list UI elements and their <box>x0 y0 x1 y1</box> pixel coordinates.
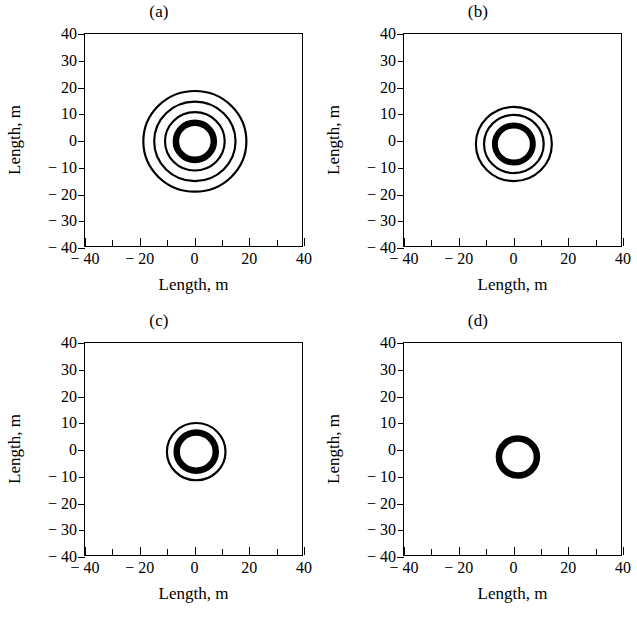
x-tick-minor <box>112 549 113 555</box>
y-tick-label: − 30 <box>48 213 77 229</box>
y-tick-label: 0 <box>388 442 396 458</box>
panel-a: (a) Length, m Length, m 403020100− 10− 2… <box>0 0 318 309</box>
panel-c-ylabel: Length, m <box>6 342 24 556</box>
x-tick-minor <box>541 549 542 555</box>
y-tick-label: − 10 <box>48 469 77 485</box>
x-tick-label: − 20 <box>125 560 154 576</box>
y-tick-label: − 30 <box>367 213 396 229</box>
x-tick-label: 20 <box>241 560 257 576</box>
x-tick-minor <box>431 549 432 555</box>
y-tick <box>79 370 85 371</box>
y-tick-label: 30 <box>380 53 396 69</box>
panel-d: (d) Length, m Length, m 403020100− 10− 2… <box>319 309 637 618</box>
contour-ring <box>476 107 552 181</box>
x-tick-minor <box>486 240 487 246</box>
x-tick-minor <box>541 240 542 246</box>
x-tick-minor <box>596 549 597 555</box>
y-tick <box>78 450 85 451</box>
y-tick <box>397 557 404 558</box>
x-tick <box>195 547 196 555</box>
y-tick-label: 10 <box>61 415 77 431</box>
panel-b: (b) Length, m Length, m 403020100− 10− 2… <box>319 0 637 309</box>
y-tick-label: 10 <box>380 415 396 431</box>
contour-plot-a <box>85 34 302 246</box>
x-tick <box>304 547 305 555</box>
contour-ring <box>154 102 235 182</box>
y-tick <box>397 248 404 249</box>
x-tick-minor <box>222 549 223 555</box>
y-tick <box>79 168 85 169</box>
y-tick <box>398 61 404 62</box>
x-tick <box>85 547 86 555</box>
y-tick-label: − 30 <box>367 522 396 538</box>
y-tick <box>78 504 85 505</box>
x-tick-label: 40 <box>615 560 631 576</box>
y-tick <box>79 477 85 478</box>
y-tick-label: 20 <box>380 389 396 405</box>
x-tick <box>514 238 515 246</box>
x-tick-label: 40 <box>296 251 312 267</box>
x-tick-label: 0 <box>510 251 518 267</box>
panel-c-plot-area: 403020100− 10− 20− 30− 40− 40− 2002040 <box>84 342 303 556</box>
y-tick <box>398 477 404 478</box>
y-tick <box>397 34 404 35</box>
y-tick-label: 40 <box>61 335 77 351</box>
x-tick <box>514 547 515 555</box>
x-tick-minor <box>222 240 223 246</box>
panel-d-xlabel: Length, m <box>403 584 622 603</box>
panel-c-title: (c) <box>0 311 318 331</box>
y-tick-label: 40 <box>380 335 396 351</box>
panel-b-title: (b) <box>319 2 637 22</box>
panel-b-plot-area: 403020100− 10− 20− 30− 40− 40− 2002040 <box>403 33 622 247</box>
x-tick <box>249 238 250 246</box>
panel-c: (c) Length, m Length, m 403020100− 10− 2… <box>0 309 318 618</box>
y-tick <box>79 61 85 62</box>
x-tick-label: − 40 <box>389 560 418 576</box>
contour-plot-c <box>85 343 302 555</box>
y-tick-label: 0 <box>69 133 77 149</box>
y-tick <box>78 34 85 35</box>
y-tick <box>79 221 85 222</box>
y-tick-label: − 10 <box>367 160 396 176</box>
y-tick-label: 0 <box>388 133 396 149</box>
panel-a-plot-area: 403020100− 10− 20− 30− 40− 40− 2002040 <box>84 33 303 247</box>
x-tick-minor <box>486 549 487 555</box>
contour-ring <box>495 125 533 162</box>
y-tick <box>397 141 404 142</box>
x-tick <box>459 547 460 555</box>
y-tick <box>78 343 85 344</box>
panel-d-plot-area: 403020100− 10− 20− 30− 40− 40− 2002040 <box>403 342 622 556</box>
x-tick <box>140 238 141 246</box>
y-tick-label: 30 <box>61 53 77 69</box>
y-tick-label: − 10 <box>367 469 396 485</box>
panel-d-title: (d) <box>319 311 637 331</box>
contour-plot-d <box>404 343 621 555</box>
y-tick <box>398 530 404 531</box>
x-tick-minor <box>277 549 278 555</box>
x-tick-label: − 20 <box>444 251 473 267</box>
y-tick-label: 30 <box>380 362 396 378</box>
y-tick <box>397 504 404 505</box>
y-tick <box>398 423 404 424</box>
panel-c-xlabel: Length, m <box>84 584 303 603</box>
x-tick-label: 20 <box>560 560 576 576</box>
x-tick-label: 40 <box>296 560 312 576</box>
y-tick-label: 20 <box>61 389 77 405</box>
x-tick-minor <box>167 549 168 555</box>
y-tick-label: 20 <box>380 80 396 96</box>
y-tick <box>79 423 85 424</box>
x-tick <box>568 547 569 555</box>
x-tick <box>568 238 569 246</box>
y-tick <box>79 114 85 115</box>
y-tick <box>398 114 404 115</box>
y-tick-label: 30 <box>61 362 77 378</box>
y-tick <box>397 343 404 344</box>
x-tick-label: 20 <box>560 251 576 267</box>
y-tick-label: 40 <box>380 26 396 42</box>
panel-b-xlabel: Length, m <box>403 275 622 294</box>
x-tick-label: − 40 <box>70 560 99 576</box>
x-tick <box>623 547 624 555</box>
x-tick-label: 0 <box>510 560 518 576</box>
x-tick <box>249 547 250 555</box>
panel-a-title: (a) <box>0 2 318 22</box>
